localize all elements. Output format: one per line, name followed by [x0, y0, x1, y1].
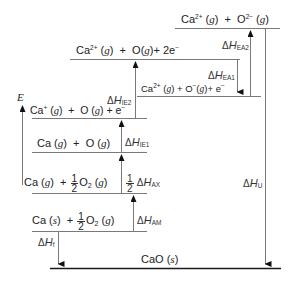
level-label-ca2-o-2e: Ca2+ (g) + O(g)+ 2e−: [76, 44, 179, 56]
label-dh-ea2: ΔHEA2: [222, 40, 249, 53]
label-dh-lattice-u: ΔHU: [243, 178, 262, 191]
fraction-half: 12: [77, 212, 85, 231]
label-dh-ie2: ΔHIE2: [107, 95, 131, 108]
label-dh-ie1: ΔHIE1: [125, 137, 149, 150]
label-dh-ea1: ΔHEA1: [208, 70, 235, 83]
energy-axis-label: E: [17, 91, 24, 103]
level-label-cao-s: CaO (s): [141, 253, 178, 265]
fraction-half: 12: [126, 174, 134, 193]
level-label-ca2-om-e: Ca2+ (g) + O−(g)+ e−: [141, 83, 225, 95]
level-label-cas-half-o2: Ca (s) + 12O2 (g): [32, 212, 114, 231]
fraction-half: 12: [71, 174, 79, 193]
level-label-ca2-o2m: Ca2+ (g) + O2− (g): [181, 13, 269, 25]
level-label-ca-half-o2: Ca (g) + 12O2 (g): [24, 174, 108, 193]
label-dh-formation: ΔHf: [38, 237, 54, 250]
label-dh-am: ΔHAM: [137, 215, 161, 228]
label-dh-ax: 12 ΔHAX: [125, 174, 160, 193]
level-label-ca-o: Ca (g) + O (g): [37, 137, 110, 149]
